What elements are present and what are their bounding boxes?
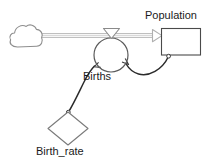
link-tail-dot-population — [167, 54, 171, 58]
flow-source-to-population[interactable] — [38, 30, 162, 42]
link-population-to-births[interactable] — [122, 54, 171, 74]
population-label: Population — [145, 9, 197, 21]
population-stock-node[interactable] — [162, 29, 201, 56]
population-stock-rect — [162, 29, 201, 56]
birthrate-label: Birth_rate — [36, 145, 84, 157]
births-circle — [94, 38, 128, 72]
birthrate-diamond — [48, 112, 88, 145]
flow-arrowhead-icon — [153, 30, 163, 42]
diagram-canvas: Population Births Birth_rate — [0, 0, 209, 163]
link-population-births-curve — [127, 57, 169, 75]
source-cloud-node[interactable] — [10, 25, 42, 47]
birthrate-converter-node[interactable] — [48, 112, 88, 145]
cloud-icon — [10, 25, 42, 47]
births-label: Births — [83, 70, 111, 82]
